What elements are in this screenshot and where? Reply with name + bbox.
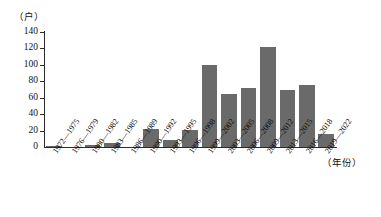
y-axis-tick-label: 120 bbox=[0, 43, 38, 53]
y-axis-tick-label-wrap: 100 bbox=[0, 60, 38, 70]
y-axis-tick-label: 140 bbox=[0, 27, 38, 37]
y-axis-tick-label-wrap: 140 bbox=[0, 27, 38, 37]
x-axis-unit-label: （年份） bbox=[322, 158, 362, 169]
y-axis-tick-label: 0 bbox=[0, 142, 38, 152]
y-axis-unit-label: （户） bbox=[14, 12, 44, 23]
y-axis-tick-label-wrap: 0 bbox=[0, 142, 38, 152]
y-axis-tick-label-wrap: 40 bbox=[0, 109, 38, 119]
bar-chart: （户） 140120100806040200 1972—19751976—197… bbox=[0, 0, 381, 217]
y-axis-tick-label: 20 bbox=[0, 126, 38, 136]
y-axis-tick-label: 80 bbox=[0, 76, 38, 86]
y-axis-tick-label-wrap: 80 bbox=[0, 76, 38, 86]
y-axis-tick-label-wrap: 60 bbox=[0, 93, 38, 103]
y-axis-tick-label-wrap: 20 bbox=[0, 126, 38, 136]
y-axis-tick-label: 100 bbox=[0, 60, 38, 70]
y-axis-tick-label-wrap: 120 bbox=[0, 43, 38, 53]
y-axis-tick-label: 60 bbox=[0, 93, 38, 103]
y-axis-tick-label: 40 bbox=[0, 109, 38, 119]
